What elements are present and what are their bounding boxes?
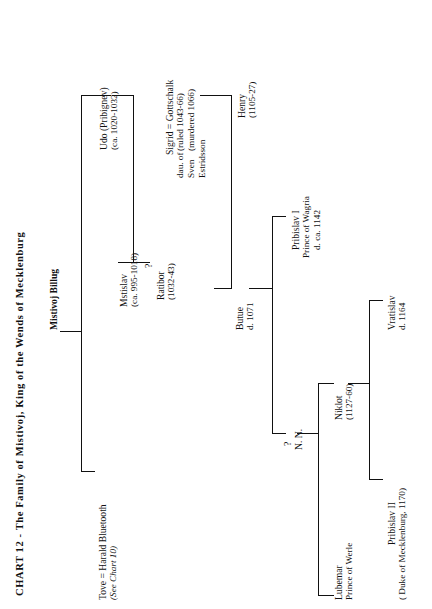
chart-title: CHART 12 - The Family of Mistivoj, King … (14, 232, 26, 596)
connector-niklot-stem (348, 383, 370, 384)
node-udo-dates: (ca. 1020-1032) (109, 91, 120, 150)
node-pribislav-ii: Pribislav II (386, 502, 397, 545)
connector-root-to-tove (81, 471, 95, 472)
connector-udo-spine (133, 95, 134, 263)
connector-nn-spine (318, 383, 319, 596)
connector-niklot-spine (369, 300, 370, 480)
connector-gottschalk-stem (200, 95, 232, 96)
node-mistivoj-billug: Mistivoj Billug (48, 269, 59, 330)
node-pribislav-i-death: d. ca. 1142 (312, 210, 323, 250)
node-henry: Henry (236, 94, 247, 118)
connector-butue-stem (249, 288, 273, 289)
connector-nn-to-niklot (318, 383, 334, 384)
node-gottschalk-death: (murdered 1066) (186, 89, 197, 151)
node-vratislav-dates: d. 1164 (397, 303, 408, 330)
node-niklot-dates: (1127-60) (344, 384, 355, 420)
node-lubemar: Lubemar (333, 565, 344, 600)
connector-root-spine (81, 95, 82, 472)
node-pribislav-i: Pribislav I (290, 210, 301, 250)
connector-niklot-to-vratislav (369, 300, 383, 301)
connector-nn-to-lubemar (318, 595, 334, 596)
node-butue: Butue (234, 307, 245, 330)
node-udo: Udo (Pribignev) (98, 87, 109, 150)
node-ratibor-dates: (1032-43) (166, 263, 177, 300)
connector-udo-stem (112, 95, 134, 96)
node-gottschalk-reign: (ruled 1043-66) (175, 93, 186, 151)
node-pribislav-i-title: Prince of Wagria (301, 196, 312, 258)
connector-root-stem (60, 331, 82, 332)
node-vratislav: Vratislav (386, 295, 397, 330)
node-sigrid-gottschalk: Sigrid = Gottschalk (164, 80, 175, 155)
node-tove-harald: Tove = Harald Bluetooth (97, 504, 108, 600)
node-mstislav: Mstislav (118, 274, 129, 307)
connector-gottschalk-spine (231, 95, 232, 289)
node-butue-dates: d. 1071 (245, 302, 256, 330)
node-niklot: Niklot (333, 395, 344, 420)
node-ratibor: Ratibor (155, 271, 166, 300)
connector-butue-spine (272, 216, 273, 434)
node-tove-harald-ref: (See Chart 10) (108, 546, 119, 600)
node-henry-dates: (1105-27) (247, 82, 258, 118)
connector-nn-stem (297, 433, 319, 434)
connector-butue-to-nn (272, 433, 286, 434)
genealogy-chart: CHART 12 - The Family of Mistivoj, King … (0, 0, 432, 609)
connector-niklot-to-pribislav2 (369, 479, 383, 480)
node-unknown-link-1: ? (143, 264, 155, 268)
node-lubemar-title: Prince of Werle (344, 543, 355, 600)
connector-butue-to-pribislav1 (272, 216, 286, 217)
connector-gottschalk-to-butue (214, 288, 232, 289)
node-pribislav-ii-title: ( Duke of Mecklenburg, 1170) (397, 488, 408, 600)
